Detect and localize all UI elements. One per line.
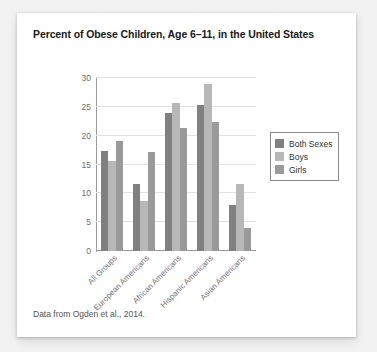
- bar: [101, 151, 108, 251]
- legend-item-label: Both Sexes: [289, 139, 332, 149]
- chart-legend: Both SexesBoysGirls: [270, 132, 339, 181]
- legend-item-label: Boys: [289, 152, 308, 162]
- bar: [180, 128, 187, 251]
- legend-swatch-icon: [275, 165, 284, 174]
- chart-caption: Data from Ogden et al., 2014.: [33, 309, 145, 319]
- y-tick-label: 10: [69, 188, 91, 198]
- y-tick-label: 5: [69, 217, 91, 227]
- legend-item[interactable]: Both Sexes: [275, 137, 332, 150]
- legend-swatch-icon: [275, 152, 284, 161]
- bar-group: [96, 78, 128, 251]
- legend-item[interactable]: Girls: [275, 163, 332, 176]
- y-tick-label: 20: [69, 131, 91, 141]
- bar: [108, 161, 115, 251]
- bar: [236, 184, 243, 251]
- chart-card: Percent of Obese Children, Age 6–11, in …: [17, 13, 356, 337]
- bar: [140, 201, 147, 251]
- y-tick-label: 30: [69, 73, 91, 83]
- legend-swatch-icon: [275, 139, 284, 148]
- y-axis-tick-labels: 051015202530: [67, 78, 91, 251]
- y-tick-label: 15: [69, 160, 91, 170]
- y-tick-label: 25: [69, 102, 91, 112]
- x-axis-tick-labels: All GroupsEuropean AmericansAfrican Amer…: [96, 253, 256, 313]
- bar-group: [128, 78, 160, 251]
- y-tick-label: 0: [69, 246, 91, 256]
- legend-item[interactable]: Boys: [275, 150, 332, 163]
- bar: [148, 152, 155, 251]
- bar: [116, 141, 123, 251]
- legend-item-label: Girls: [289, 165, 306, 175]
- chart-title: Percent of Obese Children, Age 6–11, in …: [33, 28, 314, 40]
